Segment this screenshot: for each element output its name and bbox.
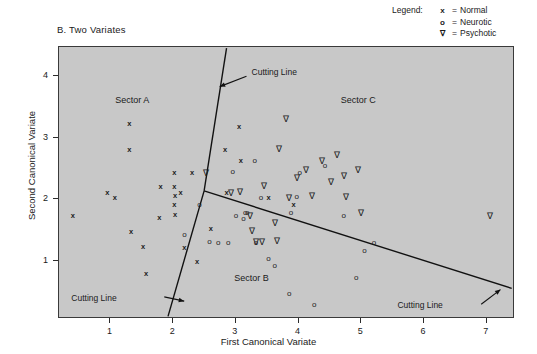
x-tickmark — [172, 318, 173, 323]
legend-row: Legend: x = Normal — [392, 5, 496, 17]
x-axis-label: First Canonical Variate — [0, 336, 537, 347]
legend-symbol-neurotic: o — [436, 17, 449, 29]
cutting-line-label: Cutting Line — [252, 67, 297, 77]
cutting-line-arrow — [220, 76, 247, 87]
y-tickmark — [53, 137, 58, 138]
cutting-line-arrow — [481, 290, 500, 305]
cutting-line-label: Cutting Line — [71, 293, 116, 303]
legend-symbol-normal: x — [436, 5, 449, 17]
x-tickmark — [235, 318, 236, 323]
x-tick-label: 2 — [170, 326, 175, 336]
x-tick-label: 4 — [295, 326, 300, 336]
legend-label-neurotic: Neurotic — [460, 17, 492, 29]
legend-row: o = Neurotic — [392, 17, 496, 29]
x-tick-label: 3 — [232, 326, 237, 336]
legend-title: Legend: — [392, 5, 436, 17]
y-tick-label: 4 — [32, 70, 48, 80]
legend-equals: = — [449, 5, 460, 17]
cutting-line-arrow — [164, 297, 184, 302]
y-axis-label: Second Canonical Variate — [26, 91, 37, 241]
legend-equals: = — [449, 28, 460, 40]
annotation-arrows-layer — [59, 47, 513, 317]
x-tick-label: 6 — [421, 326, 426, 336]
figure-two-variates: B. Two Variates Legend: x = Normal o = N… — [0, 0, 537, 354]
x-tick-label: 7 — [483, 326, 488, 336]
x-tickmark — [423, 318, 424, 323]
legend-equals: = — [449, 17, 460, 29]
x-tickmark — [109, 318, 110, 323]
y-tickmark — [53, 75, 58, 76]
legend-symbol-psychotic: ∇ — [436, 28, 449, 40]
x-tick-label: 1 — [107, 326, 112, 336]
plot-area: xxxxxxxxxxxxxxxxxxxxxxxxxxoooooooooooooo… — [58, 46, 514, 318]
y-tickmark — [53, 260, 58, 261]
legend: Legend: x = Normal o = Neurotic ∇ = Psyc… — [392, 5, 496, 40]
y-tick-label: 1 — [32, 255, 48, 265]
plot-inner: xxxxxxxxxxxxxxxxxxxxxxxxxxoooooooooooooo… — [59, 47, 513, 317]
legend-row: ∇ = Psychotic — [392, 28, 496, 40]
x-tickmark — [486, 318, 487, 323]
cutting-line-label: Cutting Line — [397, 300, 442, 310]
legend-label-psychotic: Psychotic — [460, 28, 496, 40]
y-tickmark — [53, 198, 58, 199]
x-tickmark — [298, 318, 299, 323]
x-tickmark — [360, 318, 361, 323]
panel-title: B. Two Variates — [57, 24, 126, 35]
x-tick-label: 5 — [358, 326, 363, 336]
legend-label-normal: Normal — [460, 5, 487, 17]
